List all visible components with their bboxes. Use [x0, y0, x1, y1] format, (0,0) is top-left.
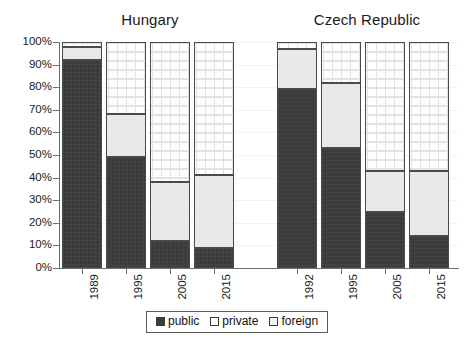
bar-hungary-2005: [150, 42, 190, 268]
bar-hungary-2015: [194, 42, 234, 268]
x-tick-mark: [297, 269, 298, 274]
bar-segment-foreign: [194, 175, 234, 247]
x-tick-label: 1995: [347, 274, 359, 300]
legend-swatch-foreign-icon: [269, 317, 278, 326]
group-title-hungary: Hungary: [60, 11, 240, 28]
y-tick-mark: [53, 65, 59, 66]
bar-hungary-1995: [106, 42, 146, 268]
y-tick-label: 30%: [6, 194, 52, 206]
y-tick-mark: [53, 178, 59, 179]
x-tick-mark: [126, 269, 127, 274]
y-tick-mark: [53, 87, 59, 88]
legend-swatch-public-icon: [156, 317, 165, 326]
bar-segment-public: [321, 148, 361, 268]
y-tick-label: 100%: [6, 36, 52, 48]
y-tick-mark: [53, 132, 59, 133]
group-title-czech: Czech Republic: [272, 11, 462, 28]
x-tick-mark: [341, 269, 342, 274]
legend-item-public: public: [156, 315, 199, 328]
x-tick-label: 1989: [88, 274, 100, 300]
y-tick-label: 70%: [6, 104, 52, 116]
y-tick-label: 90%: [6, 59, 52, 71]
bar-segment-public: [365, 212, 405, 269]
bar-segment-private: [150, 42, 190, 182]
y-tick-label: 0%: [6, 262, 52, 274]
legend-label-foreign: foreign: [281, 315, 318, 328]
plot-area: [60, 42, 458, 268]
y-tick-label: 60%: [6, 127, 52, 139]
bar-segment-private: [409, 42, 449, 171]
bar-segment-public: [150, 241, 190, 268]
legend-label-public: public: [168, 315, 199, 328]
bar-czech-republic-2015: [409, 42, 449, 268]
y-tick-mark: [53, 223, 59, 224]
bar-czech-republic-1992: [277, 42, 317, 268]
x-tick-mark: [429, 269, 430, 274]
bar-czech-republic-2005: [365, 42, 405, 268]
x-tick-label: 2015: [435, 274, 447, 300]
bar-segment-foreign: [409, 171, 449, 237]
y-tick-label: 10%: [6, 240, 52, 252]
bar-segment-private: [194, 42, 234, 175]
y-tick-label: 80%: [6, 81, 52, 93]
y-tick-mark: [53, 200, 59, 201]
bar-segment-public: [409, 236, 449, 268]
bar-segment-public: [106, 157, 146, 268]
bar-segment-private: [365, 42, 405, 171]
legend-swatch-private-icon: [210, 317, 219, 326]
legend-item-foreign: foreign: [269, 315, 318, 328]
chart-legend: public private foreign: [146, 311, 328, 333]
y-tick-mark: [53, 110, 59, 111]
x-tick-mark: [385, 269, 386, 274]
y-tick-mark: [53, 268, 59, 269]
bar-segment-private: [321, 42, 361, 83]
bar-segment-foreign: [106, 114, 146, 157]
y-tick-mark: [53, 245, 59, 246]
bar-segment-foreign: [277, 49, 317, 90]
x-tick-label: 1992: [303, 274, 315, 300]
bar-czech-republic-1995: [321, 42, 361, 268]
x-tick-label: 2005: [176, 274, 188, 300]
x-tick-mark: [214, 269, 215, 274]
bar-segment-private: [277, 42, 317, 49]
x-tick-mark: [170, 269, 171, 274]
legend-item-private: private: [210, 315, 258, 328]
stacked-bar-chart: Hungary Czech Republic 100%90%80%70%60%5…: [0, 0, 474, 349]
bar-segment-private: [106, 42, 146, 114]
bar-segment-private: [62, 42, 102, 47]
bar-hungary-1989: [62, 42, 102, 268]
x-tick-label: 2015: [220, 274, 232, 300]
x-axis-line: [59, 268, 459, 269]
bar-segment-public: [62, 60, 102, 268]
bar-segment-public: [194, 248, 234, 268]
x-tick-label: 1995: [132, 274, 144, 300]
bar-segment-foreign: [150, 182, 190, 241]
y-tick-label: 20%: [6, 217, 52, 229]
bar-segment-public: [277, 89, 317, 268]
x-tick-mark: [82, 269, 83, 274]
y-tick-label: 40%: [6, 172, 52, 184]
x-tick-label: 2005: [391, 274, 403, 300]
y-tick-mark: [53, 155, 59, 156]
bar-segment-foreign: [321, 83, 361, 149]
y-tick-label: 50%: [6, 149, 52, 161]
y-tick-mark: [53, 42, 59, 43]
bar-segment-foreign: [365, 171, 405, 212]
bar-segment-foreign: [62, 47, 102, 61]
legend-label-private: private: [222, 315, 258, 328]
y-axis: 100%90%80%70%60%50%40%30%20%10%0%: [0, 42, 52, 268]
